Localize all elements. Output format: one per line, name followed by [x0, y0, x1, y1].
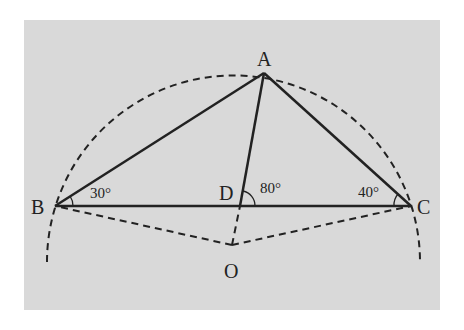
label-B: B	[31, 196, 44, 218]
angle-arc-B	[70, 196, 73, 206]
segment-AC	[264, 73, 411, 206]
angle-label-C: 40°	[358, 184, 379, 200]
segment-OD	[232, 206, 240, 245]
angle-label-ADC: 80°	[260, 180, 281, 196]
angle-label-B: 30°	[90, 185, 111, 201]
triangle-diagram: A B C D O 30° 40° 80°	[0, 0, 464, 330]
angle-arc-C	[394, 194, 398, 206]
segment-OB	[55, 206, 232, 245]
angle-arc-D	[243, 191, 255, 206]
label-A: A	[257, 48, 272, 70]
label-C: C	[417, 196, 430, 218]
circumcircle-arc	[47, 75, 420, 262]
segment-OC	[232, 206, 411, 245]
label-O: O	[224, 260, 238, 282]
label-D: D	[219, 182, 233, 204]
